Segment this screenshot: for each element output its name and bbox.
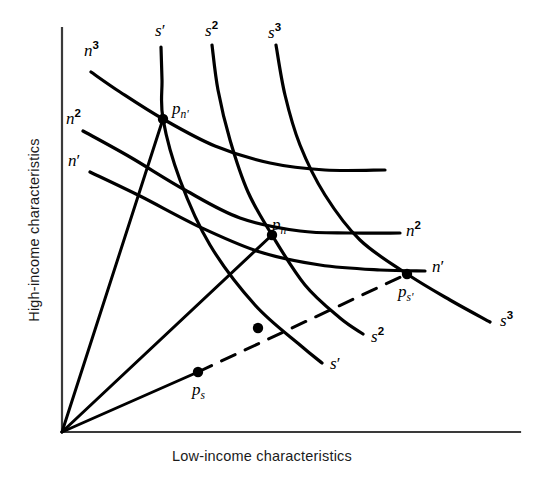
point-marker-p_s xyxy=(193,367,203,377)
curve-ray-shallow xyxy=(62,372,198,432)
curve-label-s1_top: s′ xyxy=(155,22,165,39)
curve-label-n3: n3 xyxy=(84,40,99,59)
curve-n3 xyxy=(91,72,385,171)
point-label-p_s': ps' xyxy=(398,283,413,304)
curve-s3 xyxy=(276,45,490,322)
curve-label-n1_right: n′ xyxy=(432,258,444,275)
curves-group xyxy=(62,45,490,432)
point-marker-p_n' xyxy=(158,114,168,124)
figure-container: High-income characteristics Low-income c… xyxy=(0,0,536,482)
curve-label-n2: n2 xyxy=(66,108,81,127)
point-marker-p_s' xyxy=(402,269,412,279)
diagram-canvas xyxy=(0,0,536,482)
curve-label-n1: n′ xyxy=(68,152,80,169)
curve-label-s1_end: s′ xyxy=(330,355,340,372)
curve-ray-shallow-dashed xyxy=(198,274,407,372)
point-label-p_n: pn xyxy=(272,216,286,237)
y-axis-label: High-income characteristics xyxy=(26,110,42,350)
point-label-p_s: ps xyxy=(192,381,205,402)
curve-label-s2_top: s2 xyxy=(205,20,218,39)
point-label-p_n': pn' xyxy=(172,100,189,121)
curve-label-n2_right: n2 xyxy=(406,220,421,239)
curve-label-s3_end: s3 xyxy=(500,310,513,329)
curve-label-s2_end: s2 xyxy=(371,326,384,345)
curve-s2 xyxy=(212,45,363,334)
curve-label-s3_top: s3 xyxy=(268,22,281,41)
x-axis-label: Low-income characteristics xyxy=(62,448,462,464)
point-marker-node-mid-dashed xyxy=(253,323,263,333)
